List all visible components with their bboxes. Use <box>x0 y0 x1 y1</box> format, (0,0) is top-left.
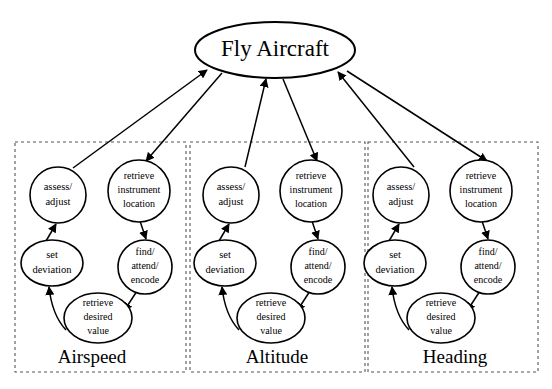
node-heading-set-deviation-shape <box>364 240 426 286</box>
node-altitude-retrieve-instrument-location-label-line1: retrieve <box>296 170 327 181</box>
node-airspeed-assess-adjust-label-line1: assess/ <box>44 181 73 192</box>
node-fly-aircraft[interactable]: Fly Aircraft <box>195 22 355 78</box>
node-altitude-set-deviation-shape <box>194 240 256 286</box>
node-airspeed-set-deviation-label-line2: deviation <box>32 264 72 275</box>
node-airspeed-retrieve-instrument-location-label-line2: instrument <box>118 184 161 195</box>
node-heading-retrieve-instrument-location[interactable]: retrieve instrument location <box>450 160 512 222</box>
node-altitude-assess-adjust[interactable]: assess/ adjust <box>203 167 259 223</box>
task-diagram: Fly Aircraft assess/ adjust retrieve ins… <box>0 0 552 389</box>
node-airspeed-retrieve-instrument-location[interactable]: retrieve instrument location <box>108 160 170 222</box>
node-airspeed-set-deviation-label-line1: set <box>46 249 58 260</box>
node-heading-assess-adjust[interactable]: assess/ adjust <box>373 167 429 223</box>
group-label-altitude: Altitude <box>246 346 308 367</box>
node-heading-find-attend-encode[interactable]: find/ attend/ encode <box>461 240 515 294</box>
group-label-heading: Heading <box>423 346 488 367</box>
node-altitude-retrieve-desired-value-label-line2: desired <box>257 311 286 322</box>
node-altitude-retrieve-instrument-location[interactable]: retrieve instrument location <box>280 160 342 222</box>
node-heading-retrieve-instrument-location-label-line3: location <box>465 198 497 209</box>
node-airspeed-find-attend-encode[interactable]: find/ attend/ encode <box>118 240 172 294</box>
node-heading-retrieve-desired-value-label-line1: retrieve <box>426 297 457 308</box>
node-airspeed-assess-adjust[interactable]: assess/ adjust <box>30 167 86 223</box>
node-altitude-set-deviation-label-line1: set <box>219 249 231 260</box>
node-fly-aircraft-label: Fly Aircraft <box>221 36 330 61</box>
node-heading-set-deviation-label-line2: deviation <box>375 264 415 275</box>
node-altitude-set-deviation[interactable]: set deviation <box>194 240 256 286</box>
node-altitude-set-deviation-label-line2: deviation <box>205 264 245 275</box>
node-heading-set-deviation[interactable]: set deviation <box>364 240 426 286</box>
node-heading-retrieve-instrument-location-label-line1: retrieve <box>466 170 497 181</box>
node-heading-retrieve-desired-value[interactable]: retrieve desired value <box>407 293 475 343</box>
node-heading-retrieve-desired-value-label-line3: value <box>430 325 452 336</box>
node-airspeed-retrieve-desired-value-label-line2: desired <box>84 311 113 322</box>
node-heading-retrieve-desired-value-label-line2: desired <box>427 311 456 322</box>
node-altitude-find-attend-encode-label-line2: attend/ <box>304 260 331 271</box>
node-airspeed-set-deviation-shape <box>21 240 83 286</box>
node-altitude-find-attend-encode-label-line3: encode <box>304 274 333 285</box>
node-altitude-retrieve-desired-value-label-line3: value <box>260 325 282 336</box>
group-label-airspeed: Airspeed <box>58 346 127 367</box>
node-altitude-retrieve-desired-value-label-line1: retrieve <box>256 297 287 308</box>
node-heading-find-attend-encode-label-line3: encode <box>474 274 503 285</box>
node-airspeed-find-attend-encode-label-line3: encode <box>131 274 160 285</box>
node-heading-assess-adjust-label-line2: adjust <box>388 196 413 207</box>
node-heading-assess-adjust-label-line1: assess/ <box>387 181 416 192</box>
node-heading-find-attend-encode-label-line2: attend/ <box>474 260 501 271</box>
node-heading-retrieve-instrument-location-label-line2: instrument <box>460 184 503 195</box>
node-altitude-retrieve-desired-value[interactable]: retrieve desired value <box>237 293 305 343</box>
node-airspeed-retrieve-instrument-location-label-line1: retrieve <box>124 170 155 181</box>
node-airspeed-assess-adjust-shape <box>30 167 86 223</box>
node-airspeed-retrieve-desired-value-label-line1: retrieve <box>83 297 114 308</box>
node-altitude-assess-adjust-label-line1: assess/ <box>217 181 246 192</box>
node-heading-set-deviation-label-line1: set <box>389 249 401 260</box>
node-airspeed-set-deviation[interactable]: set deviation <box>21 240 83 286</box>
node-airspeed-retrieve-desired-value[interactable]: retrieve desired value <box>64 293 132 343</box>
node-airspeed-assess-adjust-label-line2: adjust <box>45 196 70 207</box>
node-heading-assess-adjust-shape <box>373 167 429 223</box>
diagram-canvas: Fly Aircraft assess/ adjust retrieve ins… <box>0 0 552 389</box>
node-airspeed-find-attend-encode-label-line1: find/ <box>136 246 155 257</box>
node-airspeed-find-attend-encode-label-line2: attend/ <box>131 260 158 271</box>
node-altitude-retrieve-instrument-location-label-line3: location <box>295 198 327 209</box>
node-altitude-find-attend-encode-label-line1: find/ <box>309 246 328 257</box>
node-heading-find-attend-encode-label-line1: find/ <box>479 246 498 257</box>
node-airspeed-retrieve-desired-value-label-line3: value <box>87 325 109 336</box>
node-airspeed-retrieve-instrument-location-label-line3: location <box>123 198 155 209</box>
node-altitude-assess-adjust-label-line2: adjust <box>218 196 243 207</box>
node-altitude-find-attend-encode[interactable]: find/ attend/ encode <box>291 240 345 294</box>
node-altitude-assess-adjust-shape <box>203 167 259 223</box>
node-altitude-retrieve-instrument-location-label-line2: instrument <box>290 184 333 195</box>
